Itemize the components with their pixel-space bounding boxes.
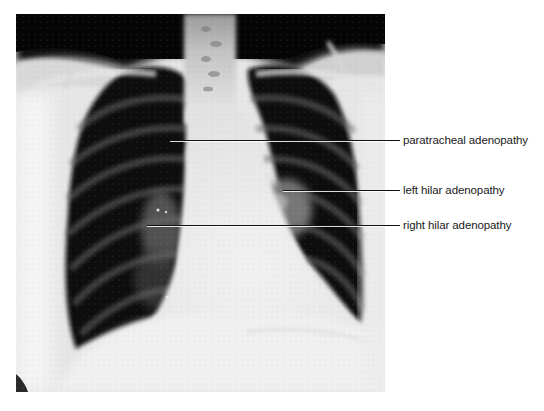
label-right-hilar-adenopathy: right hilar adenopathy: [403, 218, 511, 232]
leader-line-left-hilar: [283, 190, 400, 191]
label-paratracheal-adenopathy: paratracheal adenopathy: [403, 133, 528, 147]
chest-xray-image: [16, 14, 385, 392]
leader-line-paratracheal: [170, 140, 400, 141]
label-left-hilar-adenopathy: left hilar adenopathy: [403, 183, 504, 197]
leader-line-right-hilar: [147, 225, 400, 226]
xray-rendering: [16, 14, 385, 392]
annotated-radiograph-figure: paratracheal adenopathy left hilar adeno…: [0, 0, 544, 411]
